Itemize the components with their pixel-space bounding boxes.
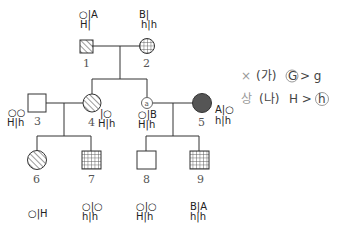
label-5: 5 xyxy=(198,116,205,129)
svg-text:(가): (가) xyxy=(256,69,276,83)
genotype-4-bottom: H|h xyxy=(98,118,115,130)
individual-6 xyxy=(28,151,47,170)
label-9: 9 xyxy=(197,173,204,186)
individual-5 xyxy=(193,94,212,113)
genotype-2-bottom: h|h xyxy=(141,19,157,31)
svg-text:×: × xyxy=(241,69,251,83)
individual-3 xyxy=(28,94,46,112)
individual-9 xyxy=(190,151,209,169)
label-8: 8 xyxy=(143,173,150,186)
individual-7 xyxy=(82,151,101,169)
svg-text:상: 상 xyxy=(241,92,252,106)
svg-text:h: h xyxy=(318,92,326,106)
individual-a: a xyxy=(142,98,153,109)
genotype-9-bottom: h|h xyxy=(190,211,206,223)
svg-text:G: G xyxy=(288,69,297,83)
label-3: 3 xyxy=(34,115,41,128)
individual-1 xyxy=(80,40,93,53)
genotype-7-bottom: h|h xyxy=(82,211,98,223)
individual-4 xyxy=(83,94,101,112)
label-2: 2 xyxy=(143,57,150,70)
label-1: 1 xyxy=(83,57,90,70)
pedigree-lines xyxy=(37,46,199,151)
genotype-5-bottom: h|h xyxy=(215,115,231,127)
label-6: 6 xyxy=(33,173,40,186)
svg-text:(나): (나) xyxy=(259,92,279,106)
label-7: 7 xyxy=(88,173,95,186)
genotype-1-bottom: H| xyxy=(80,19,91,31)
svg-text:> g: > g xyxy=(300,69,322,83)
genotype-6: ○|H xyxy=(28,208,48,220)
trait-note-1: × (가) G > g xyxy=(241,69,322,83)
pedigree-diagram: 1 ○|A H| 2 B| h|h 3 ○○ H|h 4 |○ H|h a ○|… xyxy=(0,0,340,235)
individual-2 xyxy=(140,39,155,54)
label-a: a xyxy=(145,100,149,108)
genotype-8-bottom: H|h xyxy=(136,211,153,223)
individual-8 xyxy=(137,151,156,169)
svg-text:H >: H > xyxy=(289,92,312,106)
genotype-3-bottom: H|h xyxy=(7,117,24,129)
trait-note-2: 상 (나) H > h xyxy=(241,92,329,106)
genotype-a-bottom: H|h xyxy=(138,119,155,131)
label-4: 4 xyxy=(88,116,95,129)
